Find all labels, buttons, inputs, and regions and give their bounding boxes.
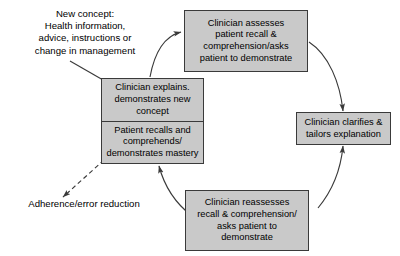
arrow-assesses-to-clarifies — [309, 42, 343, 111]
clinician-assesses-line-3: comprehension/asks — [203, 41, 288, 53]
flow-diagram-canvas: New concept: Health information, advice,… — [0, 0, 400, 256]
clinician-clarifies-node[interactable]: Clinician clarifies & tailors explanatio… — [296, 112, 391, 145]
outcome-annotation: Adherence/error reduction — [8, 198, 160, 210]
clinician-reassesses-line-1: Clinician reassesses — [205, 197, 290, 209]
new-concept-line-3: advice, instructions or — [5, 32, 165, 44]
arrow-explains-to-adherence — [63, 160, 104, 197]
new-concept-line-4: change in management — [5, 45, 165, 57]
clinician-explains-line-3: concept — [136, 106, 169, 118]
outcome-annotation-line-1: Adherence/error reduction — [8, 198, 160, 210]
clinician-assesses-line-2: patient recall & — [215, 29, 277, 41]
new-concept-annotation: New concept: Health information, advice,… — [5, 8, 165, 57]
clinician-clarifies-line-1: Clinician clarifies & — [304, 117, 382, 129]
patient-recalls-section: Patient recalls and comprehends/ demonst… — [102, 122, 203, 164]
patient-recalls-line-1: Patient recalls and — [114, 125, 191, 137]
new-concept-line-1: New concept: — [5, 8, 165, 20]
patient-recalls-line-3: demonstrates mastery — [107, 148, 199, 160]
clinician-assesses-node[interactable]: Clinician assesses patient recall & comp… — [184, 10, 308, 72]
clinician-assesses-line-1: Clinician assesses — [208, 18, 284, 30]
clinician-clarifies-line-2: tailors explanation — [306, 129, 381, 141]
clinician-reassesses-line-2: recall & comprehension/ — [197, 209, 297, 221]
clinician-explains-line-1: Clinician explains. — [115, 82, 189, 94]
clinician-reassesses-line-3: asks patient to — [217, 221, 277, 233]
clinician-assesses-line-4: patient to demonstrate — [200, 53, 293, 65]
clinician-explains-node[interactable]: Clinician explains. demonstrates new con… — [101, 78, 204, 164]
clinician-reassesses-node[interactable]: Clinician reassesses recall & comprehens… — [185, 190, 309, 251]
clinician-reassesses-line-4: demonstrate — [221, 232, 273, 244]
arrow-reassesses-to-clarifies — [318, 146, 343, 208]
clinician-explains-section: Clinician explains. demonstrates new con… — [102, 79, 203, 122]
new-concept-line-2: Health information, — [5, 20, 165, 32]
patient-recalls-line-2: comprehends/ — [123, 136, 182, 148]
clinician-explains-line-2: demonstrates new — [115, 94, 191, 106]
